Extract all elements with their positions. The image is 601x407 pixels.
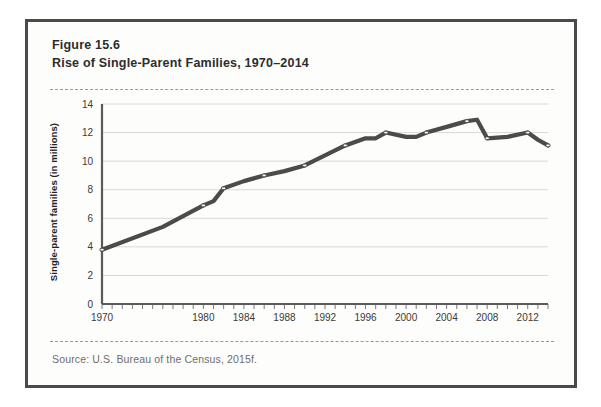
x-tick-label: 2008 [476,312,499,323]
x-tick-label: 2004 [436,312,459,323]
chart-plot-area: Single-parent families (in millions) 024… [50,94,556,334]
y-tick-label: 4 [87,241,93,252]
figure-title-block: Figure 15.6 Rise of Single-Parent Famili… [52,37,532,72]
x-tick-label: 1988 [273,312,296,323]
divider-top [50,89,554,90]
figure-number: Figure 15.6 [52,37,532,54]
data-point-marker [424,131,428,134]
x-tick-label: 2012 [517,312,540,323]
page-title: Rise of Single-Parent Families, 1970–201… [52,54,532,72]
data-point-marker [465,120,469,123]
data-point-marker [384,131,388,134]
x-tick-label: 1992 [314,312,337,323]
data-point-marker [262,174,266,177]
line-chart: 0246810121419701980198419881992199620002… [50,94,556,334]
data-point-marker [526,131,530,134]
y-tick-label: 8 [87,184,93,195]
y-tick-label: 2 [87,270,93,281]
x-tick-label: 2000 [395,312,418,323]
data-point-marker [485,137,489,140]
divider-bottom [50,341,554,342]
y-tick-label: 12 [82,127,94,138]
x-tick-label: 1970 [91,312,114,323]
data-point-marker [303,164,307,167]
data-point-marker [343,144,347,147]
x-tick-label: 1996 [354,312,377,323]
data-point-marker [222,187,226,190]
x-tick-label: 1980 [192,312,215,323]
y-tick-label: 10 [82,156,94,167]
y-tick-label: 0 [87,299,93,310]
y-tick-label: 14 [82,99,94,110]
data-series-line [102,120,548,250]
data-point-marker [201,204,205,207]
x-tick-label: 1984 [233,312,256,323]
source-note: Source: U.S. Bureau of the Census, 2015f… [52,353,257,365]
figure-panel: Figure 15.6 Rise of Single-Parent Famili… [25,19,577,388]
data-point-marker [546,144,550,147]
data-point-marker [100,248,104,251]
y-tick-label: 6 [87,213,93,224]
